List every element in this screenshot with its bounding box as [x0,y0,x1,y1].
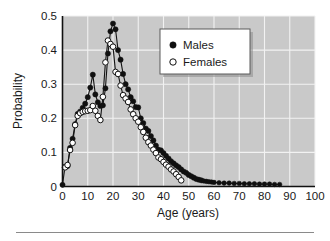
data-point [237,181,242,186]
data-point [98,117,104,123]
data-point [136,105,141,110]
y-tick-label: 0.1 [41,146,57,158]
x-tick-label: 100 [305,190,324,202]
x-tick-labels: 0102030405060708090100 [59,190,324,202]
x-tick-label: 40 [157,190,170,202]
x-tick-label: 70 [233,190,246,202]
y-tick-label: 0.2 [41,112,57,124]
data-point [70,140,76,146]
data-point [115,48,120,53]
data-point [72,122,78,128]
legend-males-label: Males [183,39,214,51]
data-point [126,87,131,92]
data-point [131,99,136,104]
data-point [110,21,115,26]
data-point [108,29,113,34]
data-point [110,44,116,50]
data-point [113,27,118,32]
data-point [83,101,88,106]
data-point [100,94,106,100]
data-point [118,57,123,62]
data-point [93,92,98,97]
x-axis-title: Age (years) [157,206,219,220]
legend-females-label: Females [183,56,227,68]
x-tick-label: 60 [208,190,221,202]
data-point [135,119,141,125]
x-tick-label: 10 [81,190,94,202]
data-point [85,95,90,100]
data-point [247,181,252,186]
legend-females-marker-icon [170,59,176,65]
y-tick-label: 0.5 [41,10,57,22]
y-tick-labels: 00.10.20.30.40.5 [41,10,58,193]
data-point [103,60,109,66]
y-axis-title: Probability [11,73,25,129]
chart-figure: 0102030405060708090100 00.10.20.30.40.5 … [0,0,330,241]
data-point [88,85,93,90]
data-point [141,129,147,135]
legend: Males Females [160,29,253,77]
probability-by-age-chart: 0102030405060708090100 00.10.20.30.40.5 … [0,0,330,241]
data-point [222,181,227,186]
legend-males-marker-icon [170,42,176,48]
data-point [217,180,222,185]
data-point [125,99,131,105]
x-tick-label: 80 [258,190,271,202]
data-point [242,181,247,186]
data-point [100,103,105,108]
y-tick-label: 0.4 [41,44,58,56]
data-point [252,181,257,186]
y-tick-label: 0 [51,181,57,193]
data-point [232,181,237,186]
y-tick-label: 0.3 [41,78,57,90]
data-point [212,180,217,185]
data-point [115,71,121,77]
x-tick-label: 30 [132,190,145,202]
data-point [227,181,232,186]
data-point [90,72,95,77]
x-tick-label: 50 [182,190,195,202]
data-point [178,178,184,184]
data-point [67,147,73,153]
x-tick-label: 90 [283,190,296,202]
x-tick-label: 0 [59,190,65,202]
data-point [118,83,124,89]
x-tick-label: 20 [107,190,120,202]
data-point [146,128,151,133]
data-point [65,162,71,168]
